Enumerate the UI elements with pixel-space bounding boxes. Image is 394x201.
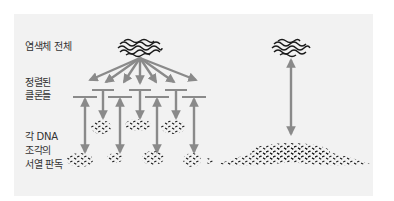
middle-dna-fragments [91, 119, 185, 134]
left-chromosome-icon [118, 40, 162, 57]
bottom-dna-fragments [67, 151, 214, 167]
right-chromosome-icon [272, 40, 310, 57]
shotgun-dna-fragments [218, 143, 370, 166]
clone-to-fragment-arrows [103, 91, 176, 118]
sequencing-diagram [0, 0, 394, 201]
fan-arrows [90, 58, 196, 83]
